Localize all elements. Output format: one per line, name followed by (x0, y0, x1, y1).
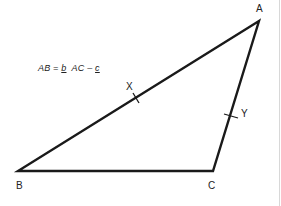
side-length-formula: AB = b AC – c (38, 63, 100, 73)
formula-ac: AC – (66, 63, 95, 73)
right-border (279, 0, 280, 206)
vertex-label-c: C (208, 180, 215, 191)
vertex-label-b: B (16, 180, 23, 191)
formula-ab: AB = (38, 63, 61, 73)
midpoint-label-y: Y (241, 108, 248, 119)
midpoint-label-x: X (126, 81, 133, 92)
triangle-diagram (0, 0, 281, 206)
vertex-label-a: A (256, 3, 263, 14)
formula-c: c (95, 63, 100, 73)
triangle-abc (18, 21, 259, 171)
